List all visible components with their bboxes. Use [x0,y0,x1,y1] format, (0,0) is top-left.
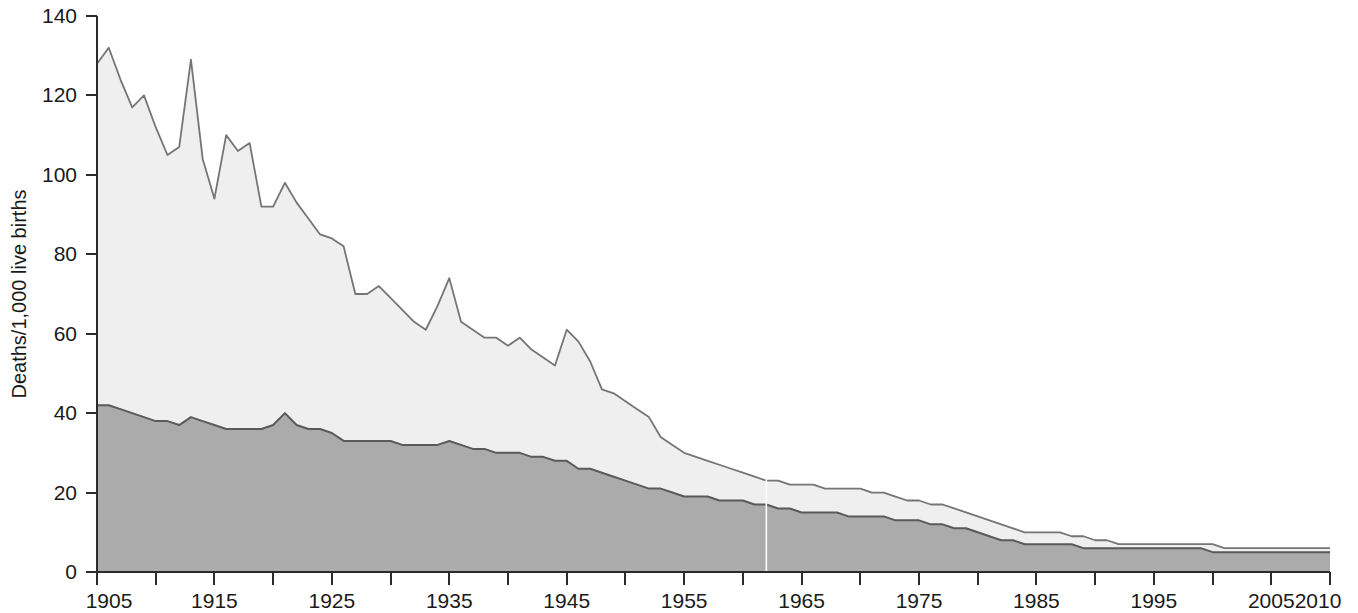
x-tick-label: 2010 [1295,589,1342,612]
y-axis-title: Deaths/1,000 live births [8,189,30,398]
x-tick-label: 1995 [1130,589,1177,612]
x-tick-label: 1975 [896,589,943,612]
x-tick-label: 2005 [1248,589,1295,612]
y-tick-label: 120 [42,83,77,106]
y-tick-label: 60 [54,322,77,345]
x-tick-label: 1925 [308,589,355,612]
x-tick-label: 1905 [86,589,133,612]
x-tick-label: 1915 [191,589,238,612]
x-tick-label: 1935 [426,589,473,612]
x-tick-label: 1945 [543,589,590,612]
infant-mortality-area-chart: 020406080100120140 190519151925193519451… [0,0,1358,613]
x-tick-label: 1955 [661,589,708,612]
y-tick-label: 140 [42,4,77,27]
x-tick-label: 1985 [1013,589,1060,612]
y-tick-label: 40 [54,401,77,424]
y-tick-label: 80 [54,242,77,265]
chart-container: 020406080100120140 190519151925193519451… [0,0,1358,613]
x-tick-label: 1965 [778,589,825,612]
y-tick-label: 100 [42,163,77,186]
y-tick-label: 20 [54,481,77,504]
y-tick-label: 0 [65,560,77,583]
